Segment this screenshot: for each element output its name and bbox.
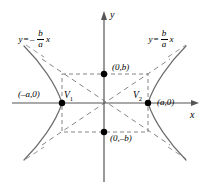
asymptote-right-equals: = [153,35,159,44]
covertex-point-top [101,71,107,77]
point-label-a-zero: (a,0) [157,98,174,107]
asymptote-right-equation: y = b a x [148,29,174,49]
vertex-label-v1: V1 [64,91,73,102]
y-axis-label: y [110,10,114,20]
asymptote-right-fraction: b a [161,29,168,49]
vertex-label-v2-subscript: 2 [139,95,142,102]
vertex-point-v2 [145,100,151,106]
x-axis-label: x [190,110,194,120]
hyperbola-figure: x y y = – b a x y = b a x (–a,0) (a,0) (… [0,0,208,188]
vertex-label-v1-subscript: 1 [70,95,73,102]
asymptote-left-numerator: b [37,29,44,39]
asymptote-left-sign: – [29,35,36,44]
asymptote-left-denominator: a [37,40,44,50]
asymptote-left-equation: y = – b a x [18,29,51,49]
y-axis-arrowhead [101,11,107,20]
asymptote-left-variable: x [46,35,51,44]
asymptote-right-variable: x [169,35,174,44]
covertex-point-bottom [101,129,107,135]
asymptote-right-denominator: a [161,40,168,50]
asymptote-left-fraction: b a [37,29,44,49]
asymptote-right-numerator: b [161,29,168,39]
point-label-zero-b: (0,b) [112,63,129,72]
point-label-minus-a-zero: (–a,0) [18,90,40,99]
point-label-zero-minus-b: (0,–b) [110,134,132,143]
x-axis-arrowhead [191,100,199,106]
vertex-label-v2: V2 [133,91,142,102]
